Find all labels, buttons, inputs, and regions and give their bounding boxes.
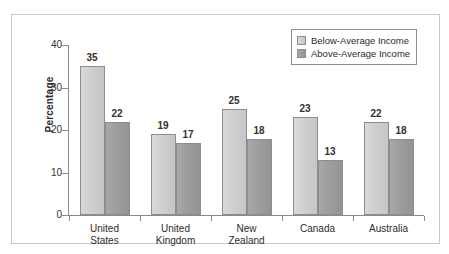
y-tick-label: 20	[22, 124, 62, 135]
x-tick-mark	[211, 216, 212, 221]
chart-legend: Below-Average Income Above-Average Incom…	[291, 29, 417, 65]
y-tick-label: 0	[22, 209, 62, 220]
bar-value-label: 25	[214, 95, 254, 106]
legend-swatch-above-average-income	[297, 49, 306, 58]
y-tick-label-wrap: 10	[12, 173, 62, 174]
x-category-label-line: Australia	[344, 223, 434, 235]
bar-value-label: 35	[72, 52, 112, 63]
y-tick-label-wrap: 0	[12, 215, 62, 216]
y-tick-mark	[62, 88, 68, 89]
y-tick-label: 10	[22, 167, 62, 178]
plot-area: 35221917251823132218	[69, 45, 424, 215]
x-axis-line	[68, 215, 424, 216]
bar-value-label: 18	[239, 125, 279, 136]
y-tick-mark	[62, 173, 68, 174]
legend-label: Below-Average Income	[311, 35, 409, 46]
y-tick-label: 40	[22, 39, 62, 50]
bar-value-label: 13	[310, 146, 350, 157]
bar	[247, 139, 272, 216]
legend-item[interactable]: Above-Average Income	[297, 47, 410, 60]
bar	[176, 143, 201, 215]
x-tick-mark	[353, 216, 354, 221]
bar	[364, 122, 389, 216]
y-tick-label-wrap: 40	[12, 45, 62, 46]
y-tick-mark	[62, 130, 68, 131]
y-tick-mark	[62, 45, 68, 46]
legend-label: Above-Average Income	[311, 48, 410, 59]
x-tick-mark	[140, 216, 141, 221]
bar	[293, 117, 318, 215]
bar-value-label: 18	[381, 125, 421, 136]
bar	[80, 66, 105, 215]
x-tick-mark	[69, 216, 70, 221]
legend-swatch-below-average-income	[297, 36, 306, 45]
bar-value-label: 23	[285, 103, 325, 114]
bar-value-label: 22	[356, 108, 396, 119]
y-tick-label: 30	[22, 82, 62, 93]
bar	[389, 139, 414, 216]
x-category-label: Australia	[344, 223, 434, 235]
bar-value-label: 22	[97, 108, 137, 119]
bar	[105, 122, 130, 216]
x-tick-mark	[282, 216, 283, 221]
y-tick-label-wrap: 30	[12, 88, 62, 89]
chart-frame: Percentage 010203040 3522191725182313221…	[11, 14, 440, 244]
y-axis-title: Percentage	[44, 60, 55, 150]
bar	[151, 134, 176, 215]
legend-item[interactable]: Below-Average Income	[297, 34, 410, 47]
bar	[318, 160, 343, 215]
y-tick-mark	[62, 215, 68, 216]
x-tick-mark	[424, 216, 425, 221]
bar-value-label: 17	[168, 129, 208, 140]
x-category-label-line: Zealand	[202, 235, 292, 247]
y-tick-label-wrap: 20	[12, 130, 62, 131]
